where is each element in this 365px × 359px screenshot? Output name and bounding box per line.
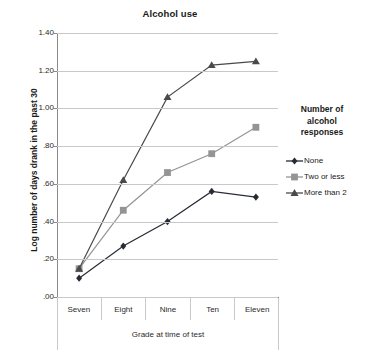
x-axis-category-ten: Ten bbox=[191, 298, 236, 320]
series-none bbox=[76, 188, 259, 282]
series-line bbox=[79, 191, 256, 278]
gridline bbox=[57, 259, 278, 260]
y-axis-tick-mark bbox=[53, 184, 57, 185]
y-axis-tick-label: 1.20 bbox=[28, 67, 54, 75]
data-point-marker bbox=[208, 150, 215, 157]
data-point-marker bbox=[253, 193, 259, 200]
legend-item-label: More than 2 bbox=[304, 188, 347, 197]
gridline bbox=[57, 222, 278, 223]
data-point-marker bbox=[292, 157, 298, 164]
legend-title: Number ofalcoholresponses bbox=[286, 104, 358, 139]
gridline bbox=[57, 108, 278, 109]
y-axis-tick-label: .20 bbox=[28, 255, 54, 263]
series-overlay bbox=[57, 33, 278, 297]
legend-items: NoneTwo or lessMore than 2 bbox=[286, 153, 365, 201]
series-more-than-2 bbox=[75, 57, 260, 271]
legend-item-label: None bbox=[304, 156, 323, 165]
legend: Number ofalcoholresponses NoneTwo or les… bbox=[286, 104, 365, 201]
legend-item-two-or-less[interactable]: Two or less bbox=[286, 169, 365, 185]
legend-item-label: Two or less bbox=[304, 172, 344, 181]
legend-item-more-than-2[interactable]: More than 2 bbox=[286, 185, 365, 201]
data-point-marker bbox=[253, 124, 260, 131]
y-axis-tick-label: .00 bbox=[28, 293, 54, 301]
data-point-marker bbox=[291, 173, 298, 180]
gridline bbox=[57, 146, 278, 147]
x-axis-category-labels: SevenEightNineTenEleven bbox=[57, 298, 279, 320]
x-axis-category-nine: Nine bbox=[146, 298, 191, 320]
series-line bbox=[79, 61, 256, 268]
y-axis-tick-labels: 1.401.201.00.80.60.40.20.00 bbox=[26, 0, 54, 359]
x-axis-category-eight: Eight bbox=[102, 298, 147, 320]
data-point-marker bbox=[164, 93, 172, 100]
data-point-marker bbox=[120, 207, 127, 214]
gridline bbox=[57, 33, 278, 34]
data-point-marker bbox=[252, 57, 260, 64]
series-line bbox=[79, 127, 256, 268]
legend-title-line: Number of bbox=[286, 104, 358, 116]
data-point-marker bbox=[76, 275, 82, 282]
y-axis-tick-mark bbox=[53, 222, 57, 223]
y-axis-tick-label: 1.40 bbox=[28, 29, 54, 37]
gridline bbox=[57, 71, 278, 72]
y-axis-tick-label: .80 bbox=[28, 142, 54, 150]
chart-container: Alcohol use Log number of days drank in … bbox=[0, 0, 365, 359]
gridline bbox=[57, 184, 278, 185]
x-axis-category-eleven: Eleven bbox=[235, 298, 279, 320]
y-axis-tick-label: .60 bbox=[28, 180, 54, 188]
legend-title-line: alcohol bbox=[286, 116, 358, 128]
plot-area bbox=[57, 33, 278, 297]
y-axis-tick-label: .40 bbox=[28, 218, 54, 226]
data-point-marker bbox=[120, 242, 126, 249]
y-axis-tick-mark bbox=[53, 146, 57, 147]
legend-marker-diamond-icon bbox=[286, 156, 303, 166]
legend-item-none[interactable]: None bbox=[286, 153, 365, 169]
data-point-marker bbox=[209, 188, 215, 195]
legend-marker-triangle-icon bbox=[286, 188, 303, 198]
x-axis-title: Grade at time of test bbox=[57, 330, 279, 339]
legend-marker-square-icon bbox=[286, 172, 303, 182]
data-point-marker bbox=[119, 176, 127, 183]
chart-title: Alcohol use bbox=[60, 8, 280, 19]
legend-title-line: responses bbox=[286, 127, 358, 139]
data-point-marker bbox=[164, 169, 171, 176]
y-axis-tick-mark bbox=[53, 71, 57, 72]
x-axis-category-seven: Seven bbox=[57, 298, 102, 320]
y-axis-tick-mark bbox=[53, 259, 57, 260]
y-axis-tick-mark bbox=[53, 108, 57, 109]
y-axis-tick-label: 1.00 bbox=[28, 104, 54, 112]
y-axis-tick-mark bbox=[53, 33, 57, 34]
